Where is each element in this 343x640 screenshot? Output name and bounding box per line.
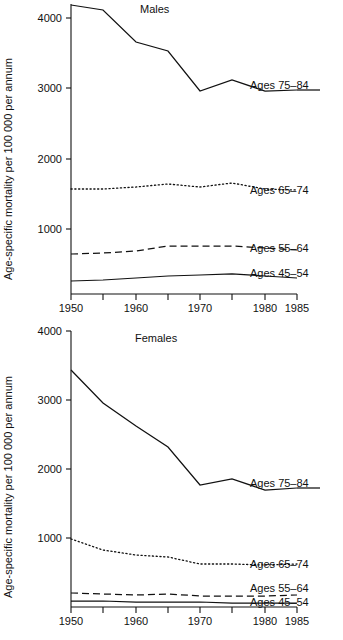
females-ytick-3000: 3000 xyxy=(38,394,62,406)
chart-panel-males: Age-specific mortality per 100 000 per a… xyxy=(0,0,343,318)
females-ytick-1000: 1000 xyxy=(38,532,62,544)
males-legend-ages-55-64: Ages 55–64 xyxy=(250,242,309,254)
males-xtick-1980: 1980 xyxy=(253,302,277,314)
males-x-ticks xyxy=(71,294,297,300)
males-xtick-1970: 1970 xyxy=(188,302,212,314)
males-chart-svg: Age-specific mortality per 100 000 per a… xyxy=(0,0,343,318)
females-series-ages-75-84 xyxy=(71,370,297,490)
females-legend-ages-65-74: Ages 65–74 xyxy=(250,558,309,570)
males-y-ticks xyxy=(66,18,71,229)
females-xtick-1960: 1960 xyxy=(124,615,148,627)
males-panel-title: Males xyxy=(140,3,170,15)
males-legend-ages-65-74: Ages 65–74 xyxy=(250,184,309,196)
females-ytick-2000: 2000 xyxy=(38,463,62,475)
females-panel-title: Females xyxy=(135,332,178,344)
males-xtick-1960: 1960 xyxy=(124,302,148,314)
males-ytick-2000: 2000 xyxy=(38,153,62,165)
chart-panel-females: Age-specific mortality per 100 000 per a… xyxy=(0,320,343,640)
females-xtick-1950: 1950 xyxy=(59,615,83,627)
males-ytick-4000: 4000 xyxy=(38,12,62,24)
females-ytick-4000: 4000 xyxy=(38,325,62,337)
females-legend-ages-55-64: Ages 55–64 xyxy=(250,582,309,594)
males-ytick-3000: 3000 xyxy=(38,82,62,94)
males-y-axis-label: Age-specific mortality per 100 000 per a… xyxy=(2,58,14,280)
females-legend-ages-75-84: Ages 75–84 xyxy=(250,477,309,489)
males-xtick-1950: 1950 xyxy=(59,302,83,314)
females-y-axis-label: Age-specific mortality per 100 000 per a… xyxy=(2,376,14,598)
females-xtick-1970: 1970 xyxy=(188,615,212,627)
females-xtick-1985: 1985 xyxy=(285,615,309,627)
females-chart-svg: Age-specific mortality per 100 000 per a… xyxy=(0,320,343,640)
females-y-ticks xyxy=(66,331,71,538)
males-legend-ages-75-84: Ages 75–84 xyxy=(250,79,309,91)
males-ytick-1000: 1000 xyxy=(38,223,62,235)
males-legend-ages-45-54: Ages 45–54 xyxy=(250,267,309,279)
males-xtick-1985: 1985 xyxy=(285,302,309,314)
females-legend-ages-45-54: Ages 45–54 xyxy=(250,596,309,608)
females-xtick-1980: 1980 xyxy=(253,615,277,627)
